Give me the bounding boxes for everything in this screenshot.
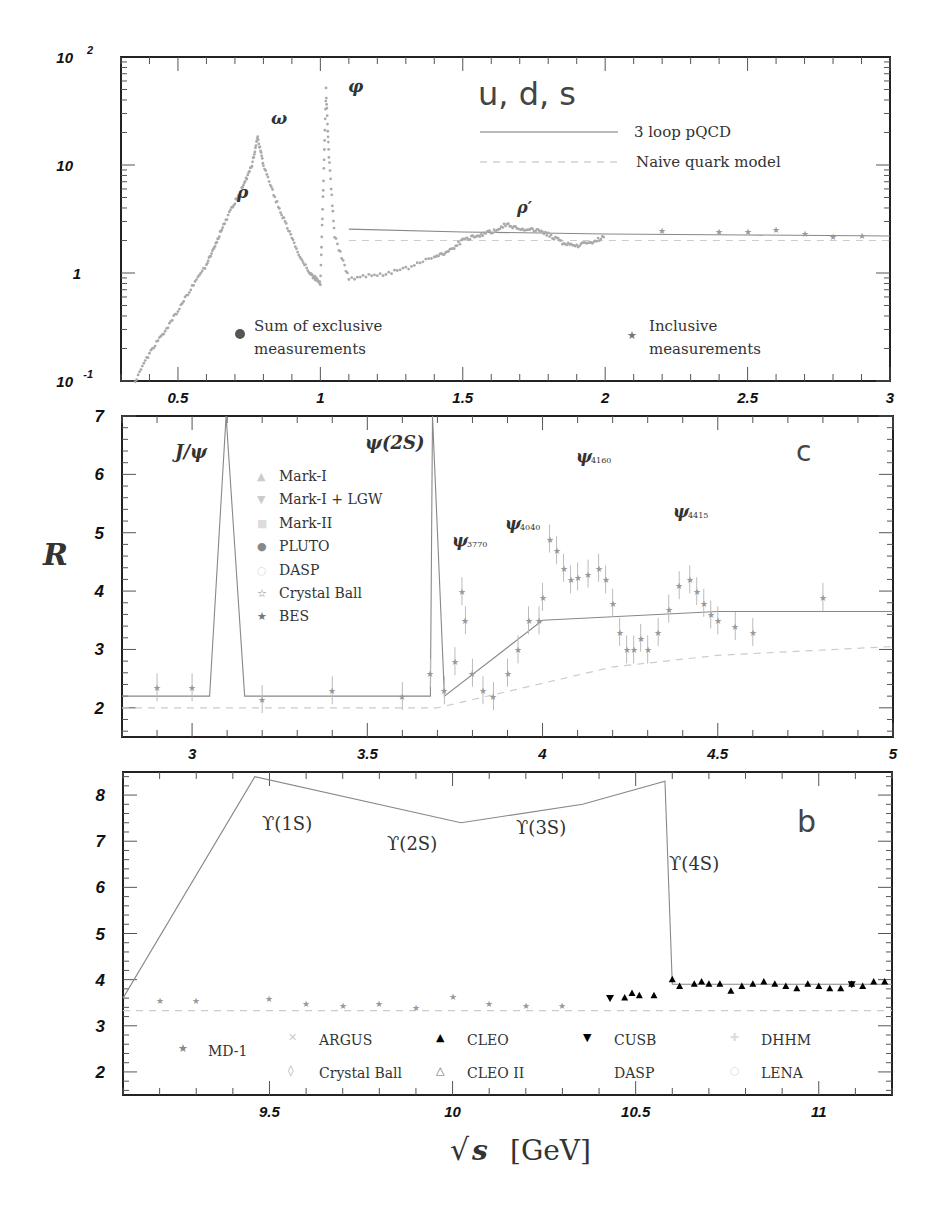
middle-panel-frame bbox=[122, 416, 893, 737]
svg-text:★: ★ bbox=[489, 692, 497, 702]
svg-text:Crystal Ball: Crystal Ball bbox=[319, 1065, 403, 1081]
svg-text:☆: ☆ bbox=[257, 587, 267, 600]
annotation-rho: ρ bbox=[236, 182, 249, 202]
svg-text:★: ★ bbox=[595, 564, 603, 574]
svg-text:△: △ bbox=[436, 1064, 445, 1077]
svg-text:5: 5 bbox=[96, 925, 106, 944]
svg-text:s: s bbox=[471, 1134, 488, 1167]
svg-text:★: ★ bbox=[514, 645, 522, 655]
svg-text:★: ★ bbox=[630, 645, 638, 655]
svg-text:★: ★ bbox=[328, 686, 336, 696]
svg-text:★: ★ bbox=[398, 692, 406, 702]
svg-text:★: ★ bbox=[522, 1001, 530, 1011]
svg-text:DHHM: DHHM bbox=[761, 1032, 811, 1048]
svg-text:11: 11 bbox=[811, 1103, 827, 1120]
svg-text:★: ★ bbox=[156, 996, 164, 1006]
svg-text:10: 10 bbox=[56, 157, 73, 174]
svg-text:★: ★ bbox=[339, 1001, 347, 1011]
svg-text:★: ★ bbox=[731, 622, 739, 632]
svg-text:★: ★ bbox=[686, 575, 694, 585]
svg-text:6: 6 bbox=[95, 465, 105, 484]
bottom-panel-label: b bbox=[797, 804, 816, 839]
svg-text:2: 2 bbox=[600, 389, 610, 406]
svg-text:★: ★ bbox=[558, 1001, 566, 1011]
svg-text:MD-1: MD-1 bbox=[208, 1043, 247, 1059]
svg-text:0.5: 0.5 bbox=[168, 389, 190, 406]
svg-text:★: ★ bbox=[192, 996, 200, 1006]
svg-text:★: ★ bbox=[654, 628, 662, 638]
bottom-legend: ★MD-1✕ARGUS◊Crystal Ball▲CLEO△CLEO II▼CU… bbox=[178, 1031, 811, 1081]
annotation-psi2s: ψ(2S) bbox=[365, 432, 425, 453]
svg-text:★: ★ bbox=[616, 628, 624, 638]
svg-text:4415: 4415 bbox=[688, 511, 708, 520]
svg-text:★: ★ bbox=[560, 564, 568, 574]
r-ratio-figure: 0.511.522.5333.544.559.51010.51123456723… bbox=[0, 0, 939, 1206]
legend-inclusive-label-2: measurements bbox=[649, 340, 761, 358]
svg-text:3: 3 bbox=[95, 640, 105, 659]
svg-text:○: ○ bbox=[257, 564, 267, 577]
svg-text:★: ★ bbox=[258, 695, 266, 705]
svg-text:1.5: 1.5 bbox=[452, 389, 474, 406]
svg-text:7: 7 bbox=[96, 832, 107, 851]
svg-text:4: 4 bbox=[537, 745, 547, 762]
svg-text:PLUTO: PLUTO bbox=[279, 538, 330, 554]
svg-text:★: ★ bbox=[665, 605, 673, 615]
annotation-psi4160: ψ4160 bbox=[576, 446, 611, 466]
legend-exclusive-label-2: measurements bbox=[254, 340, 366, 358]
annotation-psi4415: ψ4415 bbox=[673, 501, 708, 521]
svg-text:★: ★ bbox=[801, 229, 809, 239]
svg-text:▲: ▲ bbox=[436, 1031, 445, 1044]
svg-text:★: ★ bbox=[700, 599, 708, 609]
svg-text:★: ★ bbox=[153, 683, 161, 693]
svg-text:◊: ◊ bbox=[288, 1064, 294, 1077]
svg-text:★: ★ bbox=[693, 587, 701, 597]
svg-text:3770: 3770 bbox=[467, 540, 487, 549]
svg-text:★: ★ bbox=[858, 231, 866, 241]
svg-text:Mark-I + LGW: Mark-I + LGW bbox=[279, 491, 383, 507]
svg-text:★: ★ bbox=[714, 616, 722, 626]
x-axis-label: √ s [GeV] bbox=[450, 1132, 591, 1167]
svg-text:★: ★ bbox=[584, 570, 592, 580]
svg-text:★: ★ bbox=[637, 634, 645, 644]
svg-text:3: 3 bbox=[96, 1017, 106, 1036]
svg-text:★: ★ bbox=[715, 227, 723, 237]
svg-text:★: ★ bbox=[485, 999, 493, 1009]
inclusive-marker-icon: ★ bbox=[627, 329, 637, 342]
svg-text:▼: ▼ bbox=[583, 1031, 592, 1044]
svg-text:4.5: 4.5 bbox=[706, 745, 729, 762]
svg-text:2.5: 2.5 bbox=[736, 389, 759, 406]
svg-text:7: 7 bbox=[95, 407, 106, 426]
svg-text:4: 4 bbox=[94, 582, 105, 601]
svg-text:★: ★ bbox=[178, 1042, 188, 1055]
svg-text:★: ★ bbox=[440, 686, 448, 696]
svg-text:Mark-I: Mark-I bbox=[279, 468, 327, 484]
legend-naive-label: Naive quark model bbox=[636, 153, 781, 171]
svg-text:3: 3 bbox=[188, 745, 197, 762]
svg-text:-1: -1 bbox=[83, 368, 93, 380]
svg-text:★: ★ bbox=[675, 581, 683, 591]
svg-text:CUSB: CUSB bbox=[614, 1032, 656, 1048]
svg-text:■: ■ bbox=[257, 517, 267, 530]
svg-text:LENA: LENA bbox=[761, 1065, 804, 1081]
svg-text:★: ★ bbox=[468, 669, 476, 679]
annotation-upsilon-4s: ϒ(4S) bbox=[669, 853, 719, 874]
annotation-upsilon-2s: ϒ(2S) bbox=[387, 833, 437, 854]
svg-text:CLEO II: CLEO II bbox=[467, 1065, 524, 1081]
svg-text:★: ★ bbox=[658, 226, 666, 236]
svg-text:★: ★ bbox=[426, 669, 434, 679]
svg-text:★: ★ bbox=[458, 587, 466, 597]
svg-text:★: ★ bbox=[461, 616, 469, 626]
svg-text:★: ★ bbox=[772, 225, 780, 235]
legend-inclusive-label-1: Inclusive bbox=[649, 317, 717, 335]
svg-text:ARGUS: ARGUS bbox=[318, 1032, 372, 1048]
svg-text:2: 2 bbox=[86, 44, 93, 56]
pqcd-curve bbox=[349, 229, 890, 236]
annotation-omega: ω bbox=[271, 108, 287, 128]
svg-text:★: ★ bbox=[449, 992, 457, 1002]
svg-text:10: 10 bbox=[56, 49, 73, 66]
svg-text:5: 5 bbox=[889, 745, 898, 762]
exclusive-marker-icon bbox=[235, 329, 245, 339]
svg-text:4: 4 bbox=[95, 971, 106, 990]
svg-text:4160: 4160 bbox=[591, 456, 611, 465]
middle-legend: ▲Mark-I▼Mark-I + LGW■Mark-II●PLUTO○DASP☆… bbox=[257, 468, 383, 624]
